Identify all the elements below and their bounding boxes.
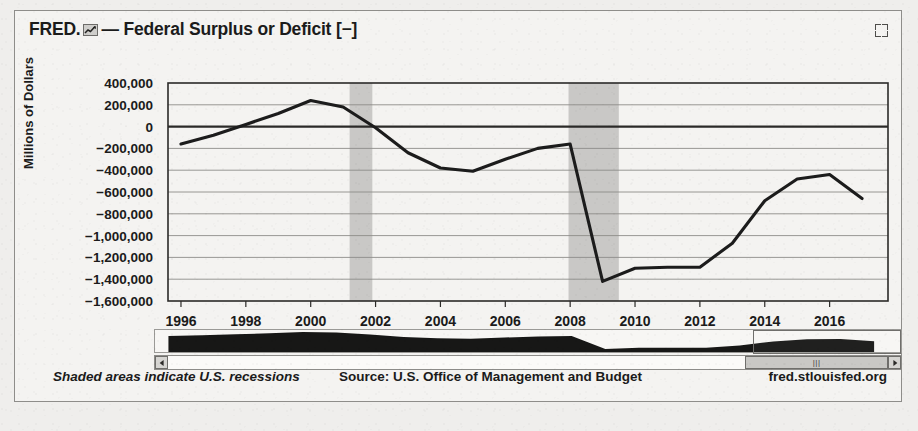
drag-grip-icon: ||| bbox=[813, 359, 821, 367]
navigator-selection-box[interactable] bbox=[753, 330, 901, 354]
fred-brand-label: FRED. bbox=[29, 19, 81, 40]
x-axis-tick-label: 2012 bbox=[684, 313, 715, 329]
x-axis-tick-label: 2004 bbox=[425, 313, 456, 329]
range-navigator[interactable]: ||| bbox=[154, 329, 902, 371]
x-axis-tick-label: 1996 bbox=[165, 313, 196, 329]
chart-footer: Shaded areas indicate U.S. recessions So… bbox=[15, 369, 901, 391]
fred-chart-icon bbox=[83, 24, 98, 36]
x-axis-tick-label: 2000 bbox=[295, 313, 326, 329]
x-axis-tick-label: 2010 bbox=[619, 313, 650, 329]
fred-chart-card: FRED. — Federal Surplus or Deficit [−] M… bbox=[14, 10, 902, 402]
chart-title: FRED. — Federal Surplus or Deficit [−] bbox=[29, 19, 357, 40]
navigator-sparkline[interactable] bbox=[154, 329, 902, 353]
scroll-left-arrow-icon[interactable] bbox=[155, 356, 168, 369]
fullscreen-expand-icon[interactable] bbox=[875, 24, 888, 37]
fred-url-link[interactable]: fred.stlouisfed.org bbox=[768, 369, 887, 384]
x-axis-tick-label: 2002 bbox=[360, 313, 391, 329]
scroll-right-arrow-icon[interactable] bbox=[888, 356, 901, 369]
recession-note: Shaded areas indicate U.S. recessions bbox=[53, 369, 300, 384]
source-label: Source: U.S. Office of Management and Bu… bbox=[339, 369, 642, 384]
x-axis-tick-label: 2016 bbox=[814, 313, 845, 329]
x-axis-tick-label: 2014 bbox=[749, 313, 780, 329]
navigator-scrollbar[interactable]: ||| bbox=[154, 355, 902, 370]
chart-area: Millions of Dollars 400,000200,0000−200,… bbox=[15, 51, 903, 351]
x-axis-tick-label: 2006 bbox=[490, 313, 521, 329]
navigator-scroll-thumb[interactable]: ||| bbox=[745, 356, 888, 369]
x-axis-tick-label: 1998 bbox=[230, 313, 261, 329]
plot-canvas bbox=[15, 51, 903, 351]
x-axis-tick-label: 2008 bbox=[555, 313, 586, 329]
chart-header: FRED. — Federal Surplus or Deficit [−] bbox=[15, 11, 901, 51]
series-title-label: — Federal Surplus or Deficit [−] bbox=[102, 19, 358, 40]
